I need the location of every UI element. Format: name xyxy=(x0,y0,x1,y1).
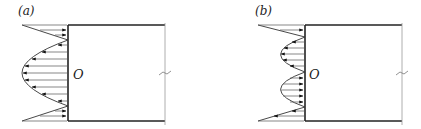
load-envelope-b xyxy=(258,25,305,121)
arrows-bottom-triangle-a xyxy=(22,111,67,121)
arrows-upper-lobe-b xyxy=(281,42,305,66)
diagram-canvas: (a) O xyxy=(0,0,421,129)
panel-a-label: (a) xyxy=(18,4,35,18)
panel-b-label: (b) xyxy=(255,4,272,18)
origin-label-a: O xyxy=(73,67,84,82)
arrows-parabola-a xyxy=(23,45,68,101)
panel-a: (a) O xyxy=(18,4,171,125)
arrows-bottom-triangle-b xyxy=(258,111,305,121)
plate-body-b xyxy=(305,23,408,125)
arrows-top-triangle-a xyxy=(22,25,67,35)
panel-b: (b) O xyxy=(255,4,408,125)
origin-label-b: O xyxy=(309,67,320,82)
arrows-lower-lobe-b xyxy=(281,78,303,102)
arrows-top-triangle-b xyxy=(258,25,304,30)
